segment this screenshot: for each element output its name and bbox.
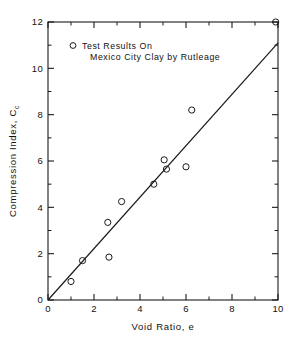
y-tick-label-2: 2 <box>37 248 43 259</box>
data-point <box>161 157 167 163</box>
data-point <box>68 278 74 284</box>
legend-line-2: Mexico City Clay by Rutleage <box>90 52 220 62</box>
data-point <box>105 219 111 225</box>
y-tick-label-8: 8 <box>37 109 43 120</box>
y-tick-label-10: 10 <box>32 63 43 74</box>
y-axis-minor-ticks <box>48 45 278 277</box>
y-axis-tick-labels: 024681012 <box>32 16 43 305</box>
y-axis-title-group: Compression Index, Cc <box>7 105 20 217</box>
x-axis-minor-ticks <box>71 22 255 300</box>
y-tick-label-6: 6 <box>37 155 43 166</box>
y-axis-major-ticks <box>48 22 278 300</box>
x-axis-tick-labels: 0246810 <box>45 303 283 314</box>
x-tick-label-6: 6 <box>183 303 189 314</box>
x-axis-title: Void Ratio, e <box>132 321 195 332</box>
x-tick-label-4: 4 <box>137 303 143 314</box>
data-point <box>119 198 125 204</box>
y-tick-label-0: 0 <box>37 294 43 305</box>
legend: Test Results On Mexico City Clay by Rutl… <box>70 41 220 63</box>
figure-container: 0246810 024681012 Void Ratio, e Compress… <box>0 0 308 346</box>
legend-line-1: Test Results On <box>82 41 152 51</box>
x-tick-label-10: 10 <box>272 303 283 314</box>
x-tick-label-8: 8 <box>229 303 235 314</box>
x-axis-major-ticks <box>48 22 278 300</box>
data-point <box>189 107 195 113</box>
y-tick-label-12: 12 <box>32 16 43 27</box>
scatter-plot: 0246810 024681012 Void Ratio, e Compress… <box>0 0 308 346</box>
data-point <box>183 164 189 170</box>
x-tick-label-2: 2 <box>91 303 97 314</box>
x-tick-label-0: 0 <box>45 303 51 314</box>
y-tick-label-4: 4 <box>37 202 43 213</box>
y-axis-title: Compression Index, Cc <box>7 105 20 217</box>
legend-marker-icon <box>70 43 76 49</box>
best-fit-line <box>48 43 278 300</box>
plot-frame <box>48 22 278 300</box>
data-point <box>106 254 112 260</box>
